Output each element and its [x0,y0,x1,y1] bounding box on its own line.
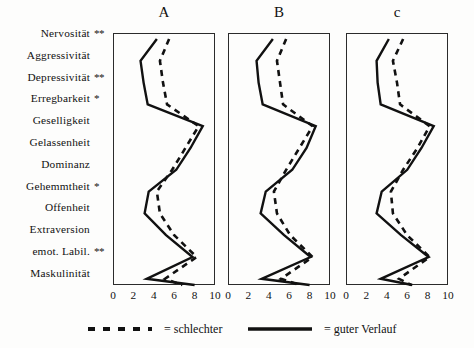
panel-c-x-tick-labels: 0246810 [337,287,457,303]
panel-c-plot [346,33,448,285]
panel-c: c 0246810 [346,33,448,285]
panel-a: A 0246810 [113,33,215,285]
series-solid-panel-b [257,39,316,285]
category-label-text: Dominanz [41,158,90,170]
category-label-text: Offenheit [45,201,90,213]
x-tick-8: 8 [186,287,204,303]
category-label-text: Gehemmtheit [26,180,90,192]
panel-b-x-tick-labels: 0246810 [219,287,339,303]
x-tick-2: 2 [239,287,257,303]
panel-b-title: B [228,4,330,21]
category-label-text: Nervosität [41,27,90,39]
category-label-2: Aggressivität [0,48,110,62]
x-tick-6: 6 [398,287,416,303]
series-solid-panel-a [141,39,203,285]
category-label-5: Geselligkeit [0,113,110,127]
significance-marker: * [94,179,110,193]
x-tick-4: 4 [145,287,163,303]
x-tick-8: 8 [419,287,437,303]
category-label-text: Extraversion [30,223,90,235]
category-label-text: Gelassenheit [30,136,90,148]
category-label-text: Depressivität [27,71,90,83]
category-label-10: Extraversion [0,222,110,236]
panel-b-plot [228,33,330,285]
significance-marker: ** [94,70,110,84]
significance-marker: ** [94,26,110,40]
legend-swatch-solid [248,323,312,335]
panel-c-title: c [346,4,448,21]
category-label-column: Nervosität**AggressivitätDepressivität**… [0,26,110,294]
legend-label: = schlechter [164,322,222,337]
panel-a-title: A [113,4,215,21]
category-label-6: Gelassenheit [0,135,110,149]
significance-marker: ** [94,244,110,258]
category-label-9: Offenheit [0,200,110,214]
series-dashed-panel-c [391,39,430,285]
series-solid-panel-c [377,39,434,285]
x-tick-4: 4 [260,287,278,303]
category-label-1: Nervosität** [0,26,110,40]
category-label-12: Maskulinität [0,266,110,280]
x-tick-4: 4 [378,287,396,303]
x-tick-0: 0 [337,287,355,303]
x-tick-6: 6 [280,287,298,303]
legend-item-solid: = guter Verlauf [248,318,397,340]
series-dashed-panel-b [274,39,313,285]
category-label-text: Erregbarkeit [31,92,90,104]
x-tick-0: 0 [219,287,237,303]
figure-root: Nervosität**AggressivitätDepressivität**… [0,0,474,348]
legend-swatch-dashed [88,323,152,335]
series-dashed-panel-a [157,39,199,285]
panel-a-plot [113,33,215,285]
category-label-text: Geselligkeit [33,114,90,126]
category-label-11: emot. Labil.** [0,244,110,258]
category-label-7: Dominanz [0,157,110,171]
legend-item-dashed: = schlechter [88,318,222,340]
x-tick-2: 2 [124,287,142,303]
category-label-text: Maskulinität [30,267,90,279]
category-label-8: Gehemmtheit* [0,179,110,193]
category-label-text: Aggressivität [27,49,90,61]
significance-marker: * [94,91,110,105]
chart-legend: = schlechter= guter Verlauf [0,318,474,344]
x-tick-2: 2 [357,287,375,303]
category-label-4: Erregbarkeit* [0,91,110,105]
panel-b: B 0246810 [228,33,330,285]
panel-a-x-tick-labels: 0246810 [104,287,224,303]
x-tick-8: 8 [301,287,319,303]
x-tick-0: 0 [104,287,122,303]
category-label-3: Depressivität** [0,70,110,84]
x-tick-10: 10 [439,287,457,303]
legend-label: = guter Verlauf [324,322,397,337]
x-tick-6: 6 [165,287,183,303]
category-label-text: emot. Labil. [32,245,90,257]
